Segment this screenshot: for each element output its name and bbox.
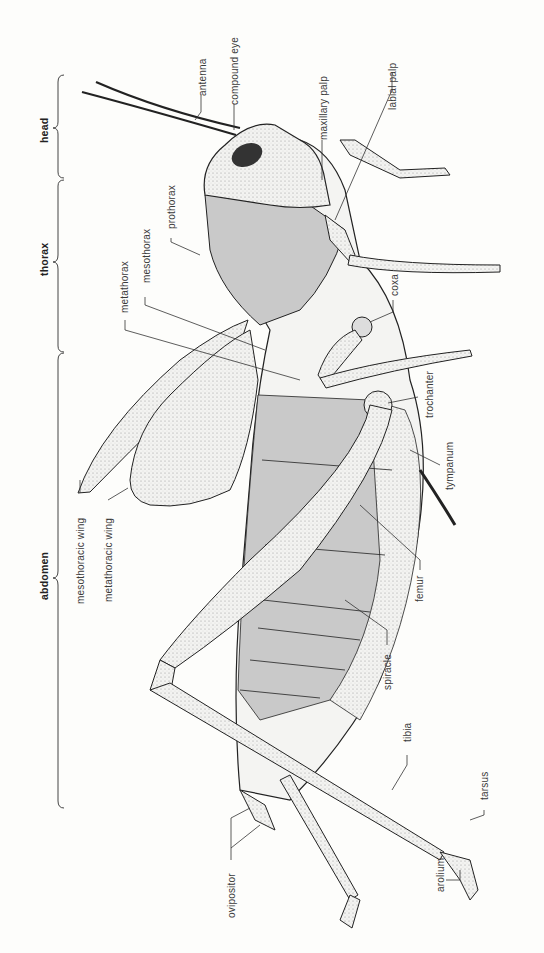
label-femur: femur <box>414 575 425 602</box>
region-label-head: head <box>38 118 50 143</box>
region-label-abdomen: abdomen <box>38 552 50 600</box>
abdomen-bracket <box>53 353 64 808</box>
label-ovipositor: ovipositor <box>226 873 237 918</box>
label-metathoracic-wing: metathoracic wing <box>103 518 114 602</box>
label-maxillary-palp: maxillary palp <box>318 76 329 140</box>
region-brackets <box>53 75 64 808</box>
label-tarsus: tarsus <box>479 772 490 800</box>
label-coxa: coxa <box>389 274 400 296</box>
head-bracket <box>53 75 64 178</box>
label-compound-eye: compound eye <box>229 37 240 105</box>
label-tympanum: tympanum <box>444 442 455 490</box>
label-antenna: antenna <box>197 58 208 96</box>
antennae <box>82 82 240 135</box>
label-labial-palp: labial palp <box>387 63 398 110</box>
label-spiracle: spiracle <box>382 654 393 690</box>
label-trochanter: trochanter <box>424 371 435 418</box>
label-mesothorax: mesothorax <box>141 229 152 283</box>
palp-leg <box>340 140 450 178</box>
thorax-bracket <box>53 180 64 352</box>
head-shape <box>204 124 330 207</box>
region-label-thorax: thorax <box>38 243 50 276</box>
label-prothorax: prothorax <box>166 185 177 229</box>
label-tibia: tibia <box>402 723 413 742</box>
grasshopper-illustration <box>0 0 544 953</box>
label-arolium: arolium <box>435 858 446 892</box>
label-mesothoracic-wing: mesothoracic wing <box>75 518 86 604</box>
label-metathorax: metathorax <box>119 261 130 313</box>
